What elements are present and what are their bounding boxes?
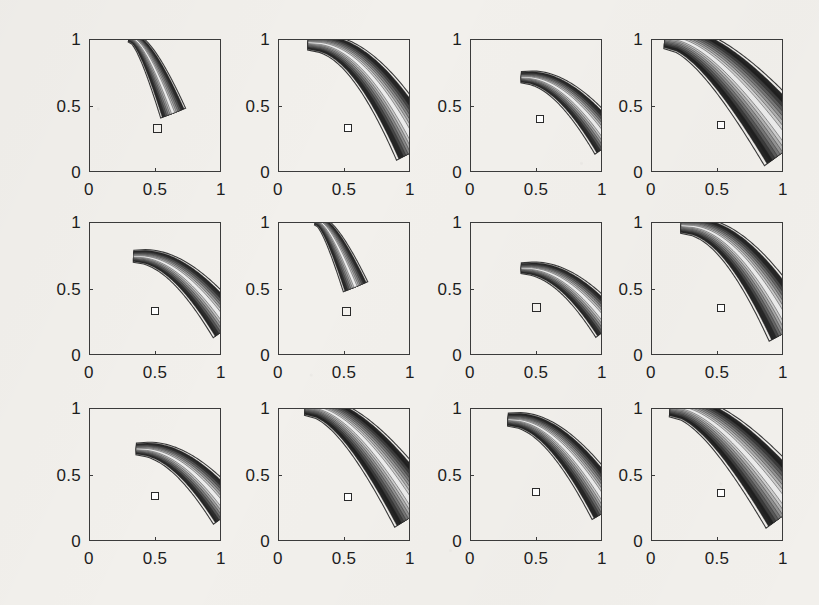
x-tick-label: 0 [273, 364, 283, 381]
x-tickmark [536, 168, 537, 172]
optimum-marker [344, 124, 352, 132]
panel-axes-box [470, 222, 602, 355]
contour-panel-6: 00.5100.51 [278, 222, 410, 355]
contour-levels [90, 40, 221, 172]
x-tickmark [155, 168, 156, 172]
y-tick-label: 1 [633, 31, 643, 48]
y-tickmark [470, 106, 474, 107]
y-tick-label: 1 [260, 31, 270, 48]
x-tickmark [536, 351, 537, 355]
contour-panel-12: 00.5100.51 [651, 408, 783, 541]
y-tick-label: 0.5 [245, 280, 270, 297]
x-tick-label: 1 [216, 550, 226, 567]
x-tick-label: 1 [597, 550, 607, 567]
x-tick-label: 0 [465, 364, 475, 381]
x-tickmark [717, 537, 718, 541]
x-tick-label: 0.5 [524, 364, 549, 381]
y-tickmark [470, 289, 474, 290]
y-tick-label: 0 [633, 164, 643, 181]
y-tickmark [278, 106, 282, 107]
panel-axes-box [651, 39, 783, 172]
x-tick-label: 1 [778, 181, 788, 198]
contour-panel-1: 00.5100.51 [89, 39, 221, 172]
y-tickmark [651, 106, 655, 107]
x-tick-label: 0 [273, 181, 283, 198]
y-tick-label: 0 [71, 164, 81, 181]
contour-plot-grid: 00.5100.5100.5100.5100.5100.5100.5100.51… [0, 0, 819, 605]
y-tick-label: 0 [633, 533, 643, 550]
x-tick-label: 0.5 [143, 364, 168, 381]
x-tick-label: 0.5 [705, 550, 730, 567]
optimum-marker [344, 493, 352, 501]
optimum-marker [717, 304, 725, 312]
y-tick-label: 1 [633, 400, 643, 417]
x-tick-label: 1 [216, 364, 226, 381]
panel-axes-box [89, 39, 221, 172]
x-tick-label: 0 [646, 550, 656, 567]
y-tickmark [278, 289, 282, 290]
y-tickmark [651, 289, 655, 290]
x-tick-label: 0.5 [524, 181, 549, 198]
contour-levels [471, 40, 602, 172]
y-tick-label: 1 [71, 400, 81, 417]
y-tick-label: 1 [452, 31, 462, 48]
y-tick-label: 0 [71, 347, 81, 364]
x-tick-label: 0.5 [705, 364, 730, 381]
y-tick-label: 0.5 [618, 280, 643, 297]
panel-axes-box [651, 408, 783, 541]
y-tick-label: 0.5 [437, 97, 462, 114]
contour-levels [90, 223, 221, 355]
panel-axes-box [278, 408, 410, 541]
panel-axes-box [89, 408, 221, 541]
x-tick-label: 1 [597, 181, 607, 198]
x-tickmark [344, 537, 345, 541]
x-tickmark [717, 351, 718, 355]
y-tickmark [278, 475, 282, 476]
contour-levels [471, 223, 602, 355]
panel-axes-box [651, 222, 783, 355]
x-tick-label: 0.5 [332, 550, 357, 567]
x-tick-label: 0 [646, 364, 656, 381]
panel-axes-box [89, 222, 221, 355]
x-tick-label: 1 [405, 364, 415, 381]
contour-panel-4: 00.5100.51 [651, 39, 783, 172]
x-tickmark [344, 168, 345, 172]
optimum-marker [532, 303, 541, 312]
contour-panel-7: 00.5100.51 [470, 222, 602, 355]
y-tick-label: 0 [633, 347, 643, 364]
y-tick-label: 0.5 [245, 466, 270, 483]
y-tick-label: 1 [260, 400, 270, 417]
x-tickmark [155, 351, 156, 355]
optimum-marker [151, 492, 159, 500]
x-tick-label: 1 [778, 364, 788, 381]
contour-levels [652, 409, 783, 541]
x-tick-label: 1 [405, 181, 415, 198]
contour-levels [471, 409, 602, 541]
x-tick-label: 0.5 [143, 181, 168, 198]
y-tick-label: 0 [260, 533, 270, 550]
panel-axes-box [278, 39, 410, 172]
optimum-marker [536, 115, 544, 123]
y-tick-label: 0 [452, 533, 462, 550]
x-tick-label: 0.5 [332, 181, 357, 198]
contour-panel-10: 00.5100.51 [278, 408, 410, 541]
x-tick-label: 0.5 [143, 550, 168, 567]
contour-panel-5: 00.5100.51 [89, 222, 221, 355]
x-tick-label: 0 [84, 181, 94, 198]
y-tick-label: 0 [71, 533, 81, 550]
y-tick-label: 1 [71, 214, 81, 231]
x-tick-label: 0 [465, 181, 475, 198]
y-tick-label: 1 [71, 31, 81, 48]
x-tick-label: 0 [84, 550, 94, 567]
x-tick-label: 1 [597, 364, 607, 381]
y-tick-label: 0.5 [245, 97, 270, 114]
contour-panel-8: 00.5100.51 [651, 222, 783, 355]
optimum-marker [532, 488, 540, 496]
x-tick-label: 0 [273, 550, 283, 567]
optimum-marker [717, 121, 725, 129]
optimum-marker [717, 489, 725, 497]
y-tickmark [89, 289, 93, 290]
contour-panel-2: 00.5100.51 [278, 39, 410, 172]
y-tick-label: 0.5 [56, 466, 81, 483]
y-tick-label: 1 [452, 400, 462, 417]
